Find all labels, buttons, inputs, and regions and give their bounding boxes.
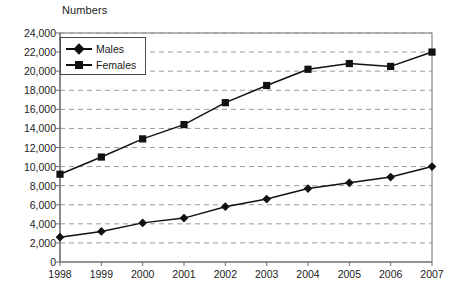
y-tick-label: 12,000 [12,142,56,154]
y-tick-label: 2,000 [12,237,56,249]
x-tick-label: 2007 [420,268,443,280]
diamond-marker-icon [66,43,92,55]
y-tick-label: 20,000 [12,65,56,77]
y-tick-label: 0 [12,256,56,268]
data-point-females [304,66,311,73]
line-chart: Numbers 02,0004,0006,0008,00010,00012,00… [0,0,461,295]
y-tick-label: 24,000 [12,27,56,39]
x-tick-label: 2005 [338,268,361,280]
y-tick-label: 22,000 [12,46,56,58]
y-tick-label: 18,000 [12,84,56,96]
x-tick-label: 2002 [214,268,237,280]
y-tick-label: 6,000 [12,199,56,211]
data-point-females [56,171,63,178]
data-point-females [98,153,105,160]
x-tick-label: 1998 [48,268,71,280]
data-point-females [139,135,146,142]
data-point-females [222,99,229,106]
chart-legend: Males Females [60,37,146,75]
legend-label-females: Females [96,59,136,71]
x-tick-label: 2003 [255,268,278,280]
legend-item-males: Males [66,41,124,57]
y-tick-label: 16,000 [12,103,56,115]
data-point-females [428,48,435,55]
y-tick-label: 10,000 [12,161,56,173]
square-marker-icon [66,59,92,71]
y-axis-tick-labels: 02,0004,0006,0008,00010,00012,00014,0001… [10,0,56,295]
x-tick-label: 2001 [172,268,195,280]
x-tick-label: 1999 [90,268,113,280]
y-tick-label: 8,000 [12,180,56,192]
data-point-females [263,82,270,89]
legend-label-males: Males [96,43,124,55]
x-tick-label: 2000 [131,268,154,280]
y-tick-label: 4,000 [12,218,56,230]
legend-item-females: Females [66,57,136,73]
x-tick-label: 2006 [379,268,402,280]
data-point-females [346,60,353,67]
data-point-females [180,121,187,128]
y-tick-label: 14,000 [12,122,56,134]
data-point-females [387,63,394,70]
x-tick-label: 2004 [296,268,319,280]
